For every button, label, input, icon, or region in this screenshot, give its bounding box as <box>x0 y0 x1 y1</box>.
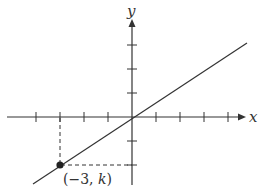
linear-function-line <box>33 43 247 184</box>
point-marker <box>56 161 63 168</box>
coordinate-plane-figure: x y (−3, k) <box>0 0 258 194</box>
point-label: (−3, k) <box>63 171 112 187</box>
point-label-suffix: ) <box>106 171 111 187</box>
x-axis-arrow-icon <box>238 114 246 121</box>
y-axis-arrow-icon <box>129 19 136 27</box>
x-axis-label: x <box>249 108 258 126</box>
point-label-prefix: (−3, <box>63 171 98 187</box>
y-axis-label: y <box>126 2 136 20</box>
graph-canvas: x y (−3, k) <box>0 0 258 194</box>
point-label-variable: k <box>98 171 106 187</box>
